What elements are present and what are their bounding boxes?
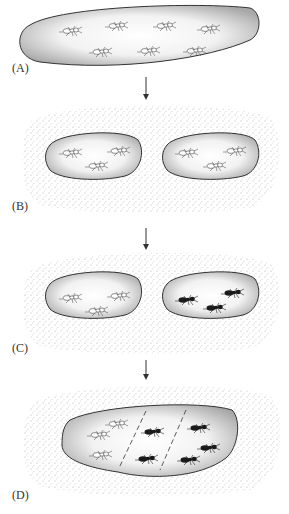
arrow-a-to-b: [143, 77, 149, 100]
panel-a-habitat: [20, 5, 259, 65]
panel-label-b: (B): [12, 199, 28, 214]
panel-label-c: (C): [12, 341, 28, 356]
panel-label-a: (A): [12, 61, 29, 76]
arrow-c-to-d: [143, 360, 149, 380]
panel-label-d: (D): [12, 488, 29, 503]
allopatric-speciation-diagram: [0, 0, 289, 514]
panel-d-habitat: [23, 386, 281, 496]
panel-b-habitats: [22, 106, 279, 213]
panel-c-habitats: [23, 253, 280, 354]
arrow-b-to-c: [143, 228, 149, 250]
